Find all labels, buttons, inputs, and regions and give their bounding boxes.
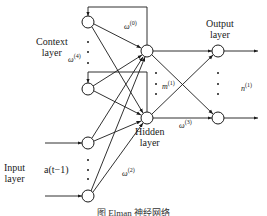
output-node-1 bbox=[212, 45, 224, 57]
hidden-node-1 bbox=[141, 45, 153, 57]
weight-w2-label: ω(2) bbox=[122, 167, 135, 178]
feedback-loop-top bbox=[88, 7, 147, 45]
weight-w4-sup: (4) bbox=[74, 53, 81, 59]
context-layer-label: Context layer bbox=[36, 36, 68, 58]
context-node-1 bbox=[82, 16, 94, 28]
weight-n1-label: n(1) bbox=[241, 82, 252, 93]
output-node-n bbox=[212, 112, 224, 124]
input-node-n bbox=[82, 190, 94, 202]
weight-m1-sup: (1) bbox=[168, 80, 175, 86]
output-label-line1: Output bbox=[206, 18, 234, 29]
context-label-line1: Context bbox=[36, 36, 68, 47]
hidden-layer-label: Hidden layer bbox=[135, 126, 164, 148]
weight-m1-label: m(1) bbox=[162, 80, 175, 91]
hidden-label-line2: layer bbox=[135, 137, 164, 148]
input-label-line2: layer bbox=[4, 173, 25, 184]
output-ellipsis bbox=[217, 72, 219, 95]
weight-w2-sup: (2) bbox=[128, 167, 135, 173]
context-label-line2: layer bbox=[36, 47, 68, 58]
weight-w0-sup: (0) bbox=[130, 20, 137, 26]
hidden-label-line1: Hidden bbox=[135, 126, 164, 137]
input-signal-label: a(t−1) bbox=[44, 164, 69, 175]
input-ellipsis bbox=[87, 159, 89, 180]
output-label-line2: layer bbox=[206, 29, 234, 40]
weight-w4-label: ω(4) bbox=[68, 53, 81, 64]
figure-caption: 图 Elman 神经网络 bbox=[0, 206, 267, 216]
input-node-1 bbox=[82, 137, 94, 149]
input-label-line1: Input bbox=[4, 162, 25, 173]
context-ellipsis bbox=[87, 41, 89, 64]
hidden-node-n bbox=[141, 112, 153, 124]
input-layer-label: Input layer bbox=[4, 162, 25, 184]
weight-w3-sup: (3) bbox=[185, 119, 192, 125]
output-layer-label: Output layer bbox=[206, 18, 234, 40]
weight-n1-sup: (1) bbox=[245, 82, 252, 88]
input-to-hidden-connections bbox=[91, 57, 145, 192]
hidden-ellipsis bbox=[155, 72, 157, 95]
weight-w0-label: ω(0) bbox=[124, 20, 137, 31]
weight-w3-label: ω(3) bbox=[179, 119, 192, 130]
context-node-n bbox=[82, 83, 94, 95]
